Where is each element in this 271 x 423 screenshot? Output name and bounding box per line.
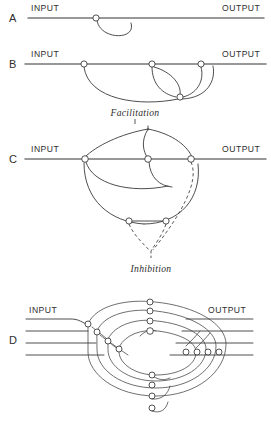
panel-d-right-node-4 xyxy=(216,349,222,355)
panel-c-letter: C xyxy=(9,153,17,165)
panel-b-synapse-node-2 xyxy=(149,61,155,67)
panel-d-bottom-node-3 xyxy=(149,393,155,399)
panel-b-letter: B xyxy=(9,58,16,70)
panel-c-synapse-node-1 xyxy=(82,156,89,163)
panel-d: D INPUT OUTPUT xyxy=(9,299,253,412)
panel-c-left-collateral-arc xyxy=(86,162,168,189)
panel-c-left-deep-arc xyxy=(84,163,144,224)
panel-c-caption: Inhibition xyxy=(130,263,172,274)
panel-c: C INPUT OUTPUT Inhibit xyxy=(9,126,266,274)
panel-d-left-node-1 xyxy=(85,321,91,327)
neural-circuit-figure: A INPUT OUTPUT B INPUT OUTPUT xyxy=(0,0,271,423)
panel-a-input-label: INPUT xyxy=(31,3,60,13)
panel-c-dashed-from-node-1 xyxy=(129,224,150,251)
panel-b-input-label: INPUT xyxy=(31,49,60,59)
panel-d-bottom-node-1 xyxy=(149,372,155,378)
panel-a-letter: A xyxy=(9,12,17,24)
panel-b-synapse-node-1 xyxy=(81,61,87,67)
panel-c-synapse-node-3 xyxy=(188,156,195,163)
figure-canvas: A INPUT OUTPUT B INPUT OUTPUT xyxy=(0,0,271,423)
panel-d-left-node-2 xyxy=(94,329,100,335)
panel-a: A INPUT OUTPUT xyxy=(9,3,264,36)
panel-b: B INPUT OUTPUT Facilitation xyxy=(9,49,266,124)
panel-d-loop-3 xyxy=(108,320,206,381)
panel-b-return-arc xyxy=(182,66,214,99)
panel-d-top-node-3 xyxy=(147,318,153,324)
panel-d-right-node-2 xyxy=(194,349,200,355)
panel-c-apex-to-centre xyxy=(143,129,148,157)
panel-d-letter: D xyxy=(9,334,17,346)
panel-b-caption: Facilitation xyxy=(110,107,160,118)
panel-d-top-node-2 xyxy=(147,308,153,314)
panel-c-synapse-node-2 xyxy=(145,156,152,163)
panel-b-long-feedback-arc xyxy=(84,67,178,102)
panel-d-output-label: OUTPUT xyxy=(208,305,247,315)
panel-d-right-connector-1 xyxy=(186,331,200,346)
panel-c-output-label: OUTPUT xyxy=(222,144,261,154)
panel-d-left-node-4 xyxy=(116,346,122,352)
panel-b-synapse-node-4 xyxy=(177,94,183,100)
panel-c-synapse-node-5 xyxy=(163,218,169,224)
panel-c-input-label: INPUT xyxy=(31,144,60,154)
panel-b-synapse-node-3 xyxy=(198,61,204,67)
panel-c-apex-to-left-node xyxy=(85,129,148,157)
panel-c-right-deep-arc xyxy=(144,164,198,224)
panel-d-input-label: INPUT xyxy=(29,305,58,315)
panel-a-recurrent-loop xyxy=(97,20,132,36)
panel-d-input-line-1 xyxy=(26,319,86,324)
panel-d-top-node-4 xyxy=(147,328,154,335)
panel-d-loop-1 xyxy=(88,301,226,396)
panel-c-centre-collateral-arc xyxy=(149,162,172,187)
panel-d-right-node-1 xyxy=(183,349,189,355)
panel-d-left-node-3 xyxy=(105,338,111,344)
panel-d-top-node-1 xyxy=(147,299,153,305)
panel-c-synapse-node-4 xyxy=(126,218,132,224)
panel-d-bottom-node-4 xyxy=(149,405,155,411)
panel-b-output-label: OUTPUT xyxy=(222,49,261,59)
panel-c-apex-to-right-node xyxy=(148,129,192,157)
panel-d-right-node-3 xyxy=(205,349,211,355)
panel-d-bottom-node-2 xyxy=(149,382,155,388)
panel-a-output-label: OUTPUT xyxy=(222,3,261,13)
panel-c-dashed-from-node-2 xyxy=(151,224,166,251)
panel-a-synapse-node xyxy=(93,15,99,21)
panel-b-mid-lateral-arc xyxy=(154,67,180,95)
panel-b-mid-descending-arc xyxy=(152,67,176,97)
panel-b-right-descending-arc xyxy=(183,67,202,97)
